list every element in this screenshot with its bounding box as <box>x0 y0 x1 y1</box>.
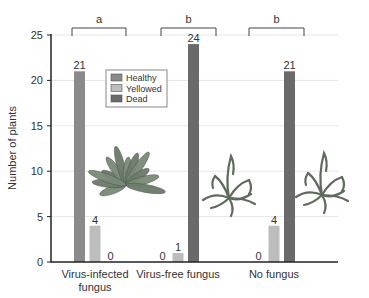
bar-value-label: 0 <box>255 250 261 262</box>
bar-healthy <box>74 71 85 262</box>
y-tick-label: 20 <box>31 74 43 86</box>
x-category-label: Virus-infected <box>61 268 128 280</box>
plant-illustrations <box>87 145 348 216</box>
significance-letter: b <box>273 13 279 25</box>
x-category-label: fungus <box>78 281 112 293</box>
bar-value-label: 21 <box>73 59 85 71</box>
y-tick-label: 25 <box>31 29 43 41</box>
y-tick-label: 10 <box>31 165 43 177</box>
bar-yellowed <box>269 226 280 262</box>
wilted-plant-icon <box>203 156 255 216</box>
bar-value-label: 4 <box>271 214 277 226</box>
y-tick-label: 15 <box>31 120 43 132</box>
legend-label: Yellowed <box>126 84 162 94</box>
legend-swatch-yellowed <box>111 85 122 92</box>
bar-value-label: 0 <box>159 250 165 262</box>
y-tick-label: 0 <box>37 256 43 268</box>
healthy-plant-icon <box>87 145 166 198</box>
bar-chart: abb 214001240421 0510152025Virus-infecte… <box>0 0 369 298</box>
x-category-label: Virus-free fungus <box>136 268 220 280</box>
bar-dead <box>188 44 199 262</box>
x-category-label: No fungus <box>249 268 300 280</box>
bar-yellowed <box>173 253 184 262</box>
bar-value-label: 1 <box>175 241 181 253</box>
bar-value-label: 21 <box>283 59 295 71</box>
legend-swatch-healthy <box>111 74 122 81</box>
bars: 214001240421 <box>73 32 295 262</box>
significance-letter: a <box>96 13 103 25</box>
bar-value-label: 24 <box>187 32 199 44</box>
legend-swatch-dead <box>111 95 122 102</box>
bar-yellowed <box>90 226 101 262</box>
wilted-plant-icon <box>296 153 348 213</box>
bar-value-label: 0 <box>107 250 113 262</box>
bar-value-label: 4 <box>92 214 98 226</box>
significance-letter: b <box>185 13 191 25</box>
legend-label: Healthy <box>126 73 157 83</box>
legend-label: Dead <box>126 94 148 104</box>
y-tick-label: 5 <box>37 211 43 223</box>
bar-dead <box>284 71 295 262</box>
legend: HealthyYellowedDead <box>106 70 167 107</box>
y-axis-label: Number of plants <box>6 106 18 190</box>
